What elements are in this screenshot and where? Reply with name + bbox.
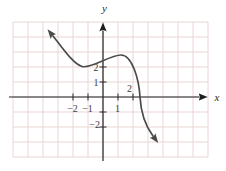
tick-labels: −2 −1 1 2 2 1 −2 <box>67 62 132 131</box>
y-axis-label: y <box>101 2 107 14</box>
x-tick-label-pos2: 2 <box>127 83 132 94</box>
grid-lines <box>13 22 208 157</box>
x-tick-label-neg2: −2 <box>67 103 78 114</box>
textbook-figure: −2 −1 1 2 2 1 −2 x y <box>0 0 226 171</box>
x-tick-label-neg1: −1 <box>82 103 93 114</box>
x-tick-label-pos1: 1 <box>115 103 120 114</box>
function-graph-svg: −2 −1 1 2 2 1 −2 x y <box>0 0 226 171</box>
y-tick-label-neg2: −2 <box>89 119 100 130</box>
y-tick-label-pos1: 1 <box>94 77 99 88</box>
x-axis-label: x <box>214 91 220 103</box>
